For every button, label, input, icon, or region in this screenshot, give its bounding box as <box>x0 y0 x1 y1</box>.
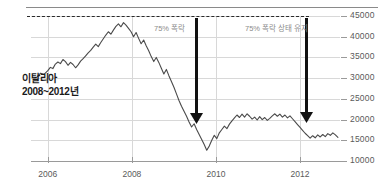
x-tick-2012 <box>300 157 301 163</box>
x-tick-2010 <box>216 157 217 163</box>
y-tick-label-20000: 20000 <box>350 115 375 124</box>
x-tick-2006 <box>48 157 49 163</box>
y-tick-15000 <box>341 140 347 141</box>
y-tick-label-15000: 15000 <box>350 135 375 144</box>
chart-figure: 4500040000350003000025000200001500010000… <box>0 0 386 193</box>
y-tick-10000 <box>341 161 347 162</box>
caption-country: 이탈리아 <box>22 72 78 85</box>
y-tick-45000 <box>341 16 347 17</box>
caption-block: 이탈리아 2008~2012년 <box>22 72 78 98</box>
y-tick-label-30000: 30000 <box>350 73 375 82</box>
annotation-sustained-2012: 75% 폭락 상태 유지 <box>245 24 308 33</box>
y-tick-label-25000: 25000 <box>350 94 375 103</box>
y-tick-35000 <box>341 57 347 58</box>
x-tick-2008 <box>132 157 133 163</box>
arrow-2012 <box>300 18 313 123</box>
x-tick-label-2006: 2006 <box>38 170 57 179</box>
top-divider-rule <box>26 7 378 8</box>
y-tick-40000 <box>341 37 347 38</box>
y-tick-label-45000: 45000 <box>350 11 375 20</box>
x-tick-label-2010: 2010 <box>207 170 226 179</box>
x-tick-label-2008: 2008 <box>122 170 141 179</box>
caption-period: 2008~2012년 <box>22 85 78 98</box>
y-tick-20000 <box>341 120 347 121</box>
y-tick-label-35000: 35000 <box>350 52 375 61</box>
x-tick-label-2012: 2012 <box>291 170 310 179</box>
annotation-crash-2009: 75% 폭락 <box>154 24 185 33</box>
y-tick-25000 <box>341 99 347 100</box>
y-tick-label-40000: 40000 <box>350 32 375 41</box>
y-tick-label-10000: 10000 <box>350 156 375 165</box>
arrow-2009 <box>190 18 203 124</box>
y-tick-30000 <box>341 78 347 79</box>
